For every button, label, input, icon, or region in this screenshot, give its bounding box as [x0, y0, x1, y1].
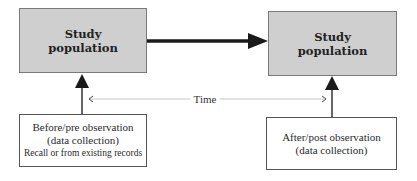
population-label-line2: population [48, 41, 118, 55]
study-population-before-box: Study population [19, 8, 147, 73]
before-observation-title: Before/pre observation [32, 121, 133, 134]
study-population-after-box: Study population [268, 11, 397, 76]
before-observation-box: Before/pre observation (data collection)… [19, 114, 147, 167]
population-label-line1: Study [65, 27, 102, 41]
after-observation-title: After/post observation [282, 131, 381, 144]
after-observation-box: After/post observation (data collection) [266, 117, 397, 170]
before-arrowhead-icon [75, 74, 89, 88]
population-label-line2: population [298, 44, 368, 58]
population-label-line1: Study [314, 30, 351, 44]
after-arrowhead-icon [325, 76, 339, 90]
before-observation-note: Recall or from existing records [24, 147, 142, 160]
time-label: Time [190, 92, 220, 106]
after-observation-subtitle: (data collection) [296, 144, 368, 157]
progression-arrowhead-icon [248, 33, 268, 49]
before-observation-subtitle: (data collection) [47, 134, 119, 147]
